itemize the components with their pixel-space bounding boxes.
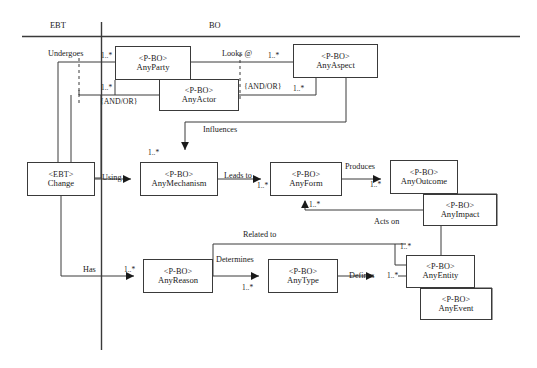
rel-label-determines: Determines [216,256,254,264]
box-anyform[interactable]: <P-BO> AnyForm [270,162,342,196]
column-header-ebt: EBT [50,22,66,30]
rel-label-defines: Defines [349,272,374,280]
box-anyaspect[interactable]: <P-BO> AnyAspect [293,44,378,78]
rel-label-related-to: Related to [243,231,276,239]
box-anyparty[interactable]: <P-BO> AnyParty [115,46,191,80]
rel-label-using: Using [102,174,122,182]
rel-label-looks-at: Looks @ [222,50,252,58]
box-name: AnyEntity [423,271,459,281]
box-name: AnyType [287,276,319,286]
rel-label-acts-on: Acts on [374,218,399,226]
multiplicity-defines: 1..* [387,272,398,279]
box-name: AnyReason [158,276,198,286]
multiplicity-has: 1..* [124,266,135,273]
conn-party-actor-group [79,80,159,95]
column-header-bo: BO [209,22,221,30]
box-name: AnyParty [137,63,170,73]
constraint-andor-right: {AND/OR} [244,83,281,91]
multiplicity-undergoes: 1..* [101,52,112,59]
box-anymechanism[interactable]: <P-BO> AnyMechanism [140,162,218,196]
multiplicity-acts-on: 1..* [400,243,411,250]
rel-label-leads-to: Leads to [224,172,252,180]
multiplicity-aspect-lower: 1..* [293,85,304,92]
multiplicity-related-to: 1..* [309,201,320,208]
box-anyentity[interactable]: <P-BO> AnyEntity [406,255,475,288]
box-name: AnyAspect [316,61,355,71]
box-anyimpact[interactable]: <P-BO> AnyImpact [423,194,497,226]
box-name: AnyMechanism [152,179,207,189]
box-anyreason[interactable]: <P-BO> AnyReason [143,259,213,293]
box-name: AnyImpact [441,210,480,220]
box-name: AnyActor [182,95,216,105]
multiplicity-influences: 1..* [148,149,159,156]
rel-label-has: Has [83,266,96,274]
constraint-andor-left: {AND/OR} [100,98,137,106]
conn-acts-on [305,201,441,255]
multiplicity-leads-to: 1..* [257,182,268,189]
multiplicity-party-andor: 1..* [101,84,112,91]
multiplicity-looks-at: 1..* [268,52,279,59]
box-anyactor[interactable]: <P-BO> AnyActor [159,79,239,111]
box-anyoutcome[interactable]: <P-BO> AnyOutcome [390,160,458,194]
rel-label-undergoes: Undergoes [48,50,83,58]
rel-label-produces: Produces [345,163,375,171]
multiplicity-produces: 1..* [370,181,381,188]
box-name: AnyForm [289,179,322,189]
multiplicity-determines: 1..* [242,284,253,291]
box-change[interactable]: <EBT> Change [27,162,95,196]
rel-label-influences: Influences [203,126,237,134]
box-anytype[interactable]: <P-BO> AnyType [268,259,338,293]
conn-has [61,196,134,276]
box-name: Change [48,179,74,189]
box-name: AnyOutcome [401,177,447,187]
diagram-canvas: <P-BO> AnyParty <P-BO> AnyActor <P-BO> A… [0,0,537,368]
box-anyevent[interactable]: <P-BO> AnyEvent [420,288,492,320]
box-name: AnyEvent [439,304,474,314]
